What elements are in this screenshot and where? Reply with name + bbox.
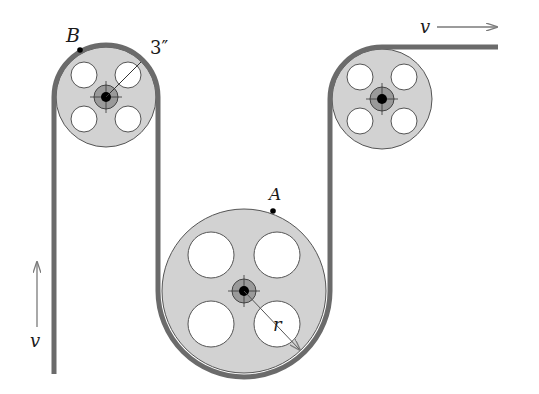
axle-icon: [377, 94, 387, 104]
point-a-marker: [270, 208, 276, 214]
spoke-hole: [347, 64, 373, 90]
belt-pulley-diagram: B A 3″ r v v: [0, 0, 539, 394]
label-point-a: A: [267, 184, 281, 204]
spoke-hole: [391, 64, 417, 90]
label-large-radius: r: [273, 314, 283, 335]
label-velocity-out: v: [420, 16, 430, 37]
spoke-hole: [71, 106, 97, 132]
point-b-marker: [77, 47, 83, 53]
spoke-hole: [254, 232, 300, 278]
spoke-hole: [347, 108, 373, 134]
spoke-hole: [115, 106, 141, 132]
label-velocity-in: v: [30, 330, 40, 351]
spoke-hole: [71, 62, 97, 88]
spoke-hole: [188, 232, 234, 278]
large-bottom-pulley: [162, 209, 326, 373]
spoke-hole: [188, 301, 234, 347]
label-point-b: B: [65, 24, 80, 46]
top-right-pulley: [332, 49, 432, 149]
top-left-pulley: [56, 47, 156, 147]
label-small-radius: 3″: [150, 37, 168, 58]
spoke-hole: [391, 108, 417, 134]
